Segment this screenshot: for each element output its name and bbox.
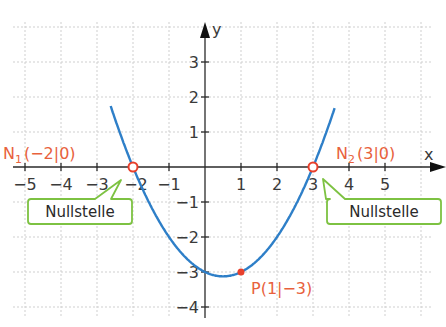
x-axis-label: x — [424, 145, 433, 164]
coordinate-plot: x y −5 −4 −3 −2 −1 1 2 3 4 5 3 2 1 −1 −2… — [0, 0, 446, 327]
callout-left-text: Nullstelle — [45, 203, 115, 221]
svg-text:3: 3 — [189, 53, 199, 72]
root-n2-marker — [309, 163, 318, 172]
callout-right-text: Nullstelle — [349, 203, 419, 221]
svg-text:2: 2 — [189, 88, 199, 107]
svg-text:1: 1 — [189, 123, 199, 142]
callout-left: Nullstelle — [28, 180, 132, 224]
root-n1-marker — [129, 163, 138, 172]
point-p-marker — [238, 269, 245, 276]
svg-text:1: 1 — [236, 175, 246, 194]
svg-text:−4: −4 — [49, 175, 73, 194]
svg-text:4: 4 — [344, 175, 354, 194]
svg-text:2: 2 — [272, 175, 282, 194]
y-axis-arrow-icon — [200, 22, 210, 38]
x-axis — [13, 162, 446, 172]
grid — [13, 22, 433, 318]
svg-text:−5: −5 — [13, 175, 37, 194]
svg-text:−4: −4 — [175, 298, 199, 317]
n1-label: N1(−2|0) — [3, 144, 76, 166]
svg-text:−1: −1 — [157, 175, 181, 194]
n2-label: N2(3|0) — [336, 144, 395, 166]
svg-text:−2: −2 — [175, 228, 199, 247]
svg-text:−1: −1 — [175, 193, 199, 212]
p-label: P(1|−3) — [251, 279, 312, 298]
y-axis-label: y — [212, 20, 221, 39]
svg-text:5: 5 — [380, 175, 390, 194]
